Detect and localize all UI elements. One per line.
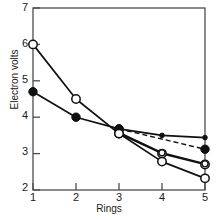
y-axis-ticks: [33, 8, 40, 190]
chart-figure: 7 6 5 4 3 2 1 2 3 4 5 Electron volts Rin…: [0, 0, 218, 220]
data-series-lines: [33, 44, 205, 178]
x-axis-ticks: [33, 183, 205, 190]
plot-area: [0, 0, 218, 220]
axis-frame: [33, 8, 205, 190]
data-series-markers: [29, 40, 209, 182]
